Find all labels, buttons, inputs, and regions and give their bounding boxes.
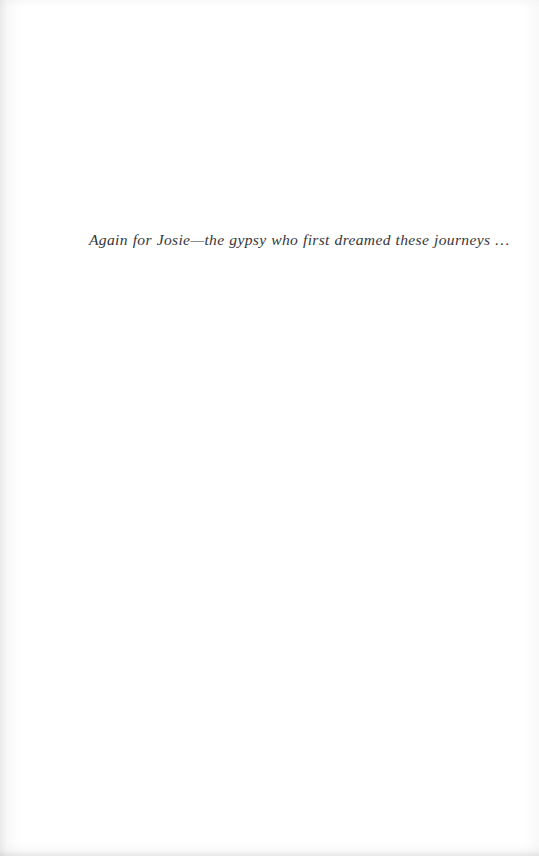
scan-right-edge-artifact <box>525 0 539 856</box>
dedication-page: Again for Josie—the gypsy who first drea… <box>0 0 539 856</box>
scan-top-edge-artifact <box>0 0 539 8</box>
scan-bottom-edge-shadow <box>0 843 539 856</box>
dedication-text: Again for Josie—the gypsy who first drea… <box>89 230 509 249</box>
scan-left-gutter-shadow <box>0 0 26 856</box>
